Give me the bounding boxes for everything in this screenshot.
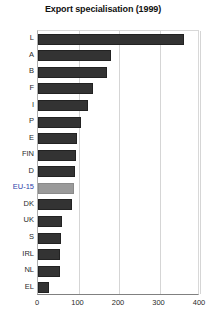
y-label-el: EL [0,283,34,291]
bar-row [38,180,74,197]
chart-title: Export specialisation (1999) [0,4,206,14]
y-label-fin: FIN [0,150,34,158]
bar-row [38,48,111,65]
bar-row [38,230,61,247]
bar-row [38,97,88,114]
bar-l[interactable] [38,34,184,45]
bar-row [38,31,184,48]
bar-uk[interactable] [38,216,62,227]
y-label-d: D [0,167,34,175]
gridline-400 [200,31,201,294]
y-label-a: A [0,51,34,59]
bar-el[interactable] [38,282,49,293]
y-label-nl: NL [0,266,34,274]
bar-e[interactable] [38,133,77,144]
bar-row [38,197,72,214]
bar-d[interactable] [38,166,75,177]
bar-p[interactable] [38,117,81,128]
bar-eu-15[interactable] [38,183,74,194]
y-label-p: P [0,117,34,125]
x-axis-tick-labels: 0100200300400 [0,298,206,312]
x-tick-label-400: 400 [193,298,206,307]
bar-row [38,130,77,147]
y-label-l: L [0,34,34,42]
bar-row [38,246,60,263]
bar-row [38,263,60,280]
bar-row [38,64,107,81]
bar-fin[interactable] [38,150,76,161]
bar-nl[interactable] [38,266,60,277]
bar-irl[interactable] [38,249,60,260]
y-axis-category-labels: LABFIPEFINDEU-15DKUKSIRLNLEL [0,30,34,295]
x-tick-label-0: 0 [35,298,39,307]
bar-f[interactable] [38,83,93,94]
bar-row [38,164,75,181]
bar-row [38,81,93,98]
bar-dk[interactable] [38,199,72,210]
y-label-irl: IRL [0,250,34,258]
y-label-eu-15: EU-15 [0,183,34,191]
y-label-e: E [0,134,34,142]
bar-i[interactable] [38,100,88,111]
bar-s[interactable] [38,233,61,244]
y-label-dk: DK [0,200,34,208]
bar-a[interactable] [38,50,111,61]
bar-b[interactable] [38,67,107,78]
y-label-b: B [0,67,34,75]
bar-row [38,279,49,296]
x-tick-label-300: 300 [152,298,165,307]
bar-row [38,114,81,131]
x-tick-label-200: 200 [112,298,125,307]
bars-layer [38,31,198,294]
y-label-s: S [0,233,34,241]
x-tick-label-100: 100 [71,298,84,307]
export-specialisation-chart: Export specialisation (1999) LABFIPEFIND… [0,0,206,322]
y-label-f: F [0,84,34,92]
bar-row [38,147,76,164]
plot-area [37,30,199,295]
y-label-i: I [0,101,34,109]
bar-row [38,213,62,230]
y-label-uk: UK [0,216,34,224]
